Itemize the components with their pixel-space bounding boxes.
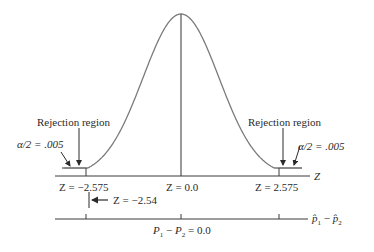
cap-p1: P bbox=[153, 224, 160, 236]
left-alpha-text: α/2 = .005 bbox=[17, 138, 64, 150]
bell-curve bbox=[62, 14, 302, 168]
test-statistic-label: Z = −2.54 bbox=[113, 195, 157, 206]
cap-minus: − bbox=[163, 224, 175, 236]
cap-p2: P bbox=[175, 224, 182, 236]
left-rejection-label: Rejection region bbox=[37, 117, 110, 128]
p-minus: − bbox=[324, 212, 330, 224]
left-alpha-label: α/2 = .005 bbox=[17, 139, 64, 150]
p-center-label: P1 − P2 = 0.0 bbox=[153, 225, 211, 239]
z-tick-label-center: Z = 0.0 bbox=[166, 182, 198, 193]
z-tick-label-right: Z = 2.575 bbox=[255, 182, 298, 193]
cap-eq: = 0.0 bbox=[185, 224, 210, 236]
p2-sub: 2 bbox=[338, 219, 342, 227]
p1-sub: 1 bbox=[318, 219, 322, 227]
right-alpha-label: α/2 = .005 bbox=[298, 141, 345, 152]
left-alpha-arrow-icon bbox=[61, 152, 70, 166]
z-axis-label: Z bbox=[314, 171, 320, 182]
z-tick-label-left: Z = −2.575 bbox=[59, 182, 108, 193]
p-axis-label: p̂1 − p̂2 bbox=[312, 213, 342, 227]
right-rejection-label: Rejection region bbox=[248, 117, 321, 128]
right-alpha-text: α/2 = .005 bbox=[298, 140, 345, 152]
